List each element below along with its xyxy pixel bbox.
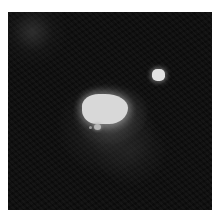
faint-knot [89, 126, 92, 129]
knot [94, 124, 101, 130]
astronomical-image [8, 12, 212, 210]
point-source [152, 69, 165, 81]
central-source [82, 94, 128, 124]
